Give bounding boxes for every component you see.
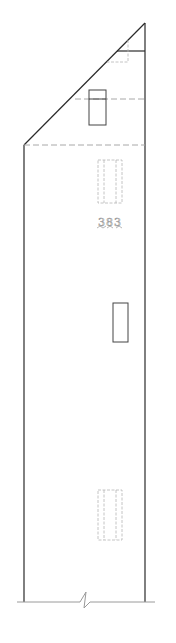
roof-slope-line: [24, 23, 145, 145]
upper-hidden-door: [98, 160, 122, 203]
attic-window: [89, 90, 106, 125]
ground-break-line: [17, 592, 155, 608]
elevation-drawing: 383: [0, 0, 176, 643]
lower-hidden-door: [98, 490, 122, 540]
side-window: [113, 303, 128, 342]
